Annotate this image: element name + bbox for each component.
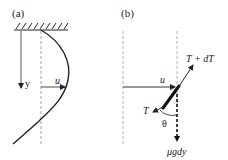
angle-label: θ: [162, 118, 167, 129]
weight-label: μgdy: [166, 146, 187, 157]
fixed-support-hatch: [14, 23, 68, 30]
tension-top-arrow: [178, 65, 193, 88]
u-label-b: u: [160, 74, 165, 85]
panel-a: (a) y u: [12, 7, 69, 146]
angle-arc: [160, 110, 177, 115]
u-label-a: u: [55, 75, 60, 86]
tension-bottom-label: T: [143, 105, 150, 116]
panel-b-label: (b): [121, 7, 134, 20]
tension-top-label: T + dT: [186, 53, 215, 64]
panel-a-label: (a): [12, 7, 25, 20]
panel-b: (b) u T + dT T θ μgdy: [121, 7, 215, 157]
weight-arrow-head: [174, 136, 180, 142]
y-axis-label: y: [25, 78, 30, 89]
diagram-canvas: (a) y u (b) u: [0, 0, 228, 160]
